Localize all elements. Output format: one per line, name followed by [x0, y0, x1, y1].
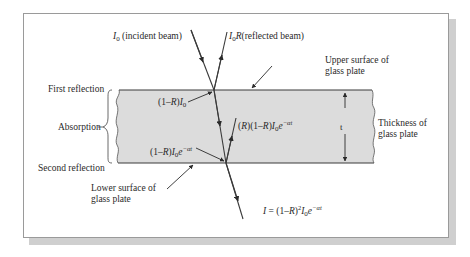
label-first-reflection: First reflection: [48, 84, 104, 95]
label-thickness: Thickness ofglass plate: [378, 118, 427, 140]
label-transmitted-top: (1–R)I0: [158, 97, 186, 111]
label-incident-beam: I0 (incident beam): [113, 31, 182, 45]
label-thickness-symbol: t: [340, 122, 343, 133]
label-internal-reflected: (R)(1–R)I0e−αt: [238, 117, 292, 135]
label-output-intensity: I = (1–R)2I0e−αt: [263, 202, 322, 220]
label-absorption: Absorption: [58, 122, 101, 133]
label-lower-surface: Lower surface ofglass plate: [91, 183, 156, 205]
label-second-reflection: Second reflection: [38, 163, 105, 174]
label-reflected-beam: I0R(reflected beam): [229, 31, 304, 45]
pointer-lower-surface: [167, 165, 193, 189]
absorption-brace: [103, 90, 112, 163]
label-upper-surface: Upper surface ofglass plate: [325, 55, 389, 77]
pointer-upper-surface: [252, 66, 272, 88]
label-attenuated: (1–R)I0e−αt: [150, 143, 192, 161]
